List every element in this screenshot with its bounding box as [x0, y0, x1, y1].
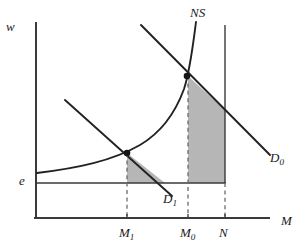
reservation-wage-label: e — [19, 174, 25, 187]
x-tick-label-m0: M0 — [180, 226, 195, 242]
figure-container: w e M NS D0 D1 M1 M0 N — [0, 0, 304, 252]
d1-base: D — [163, 191, 172, 206]
m0-base: M — [180, 225, 191, 240]
x-axis-label: M — [281, 214, 292, 227]
x-tick-label-m1: M1 — [119, 226, 134, 242]
y-axis-label: w — [6, 20, 15, 33]
d1-subscript: 1 — [172, 198, 177, 208]
x-tick-label-n: N — [219, 226, 228, 239]
labor-demand-d0-label: D0 — [270, 151, 284, 167]
shaded-region-surplus-d1 — [127, 153, 165, 183]
equilibrium-point-e1 — [124, 150, 131, 157]
d0-base: D — [270, 150, 279, 165]
labor-supply-curve-label: NS — [190, 6, 205, 19]
d0-subscript: 0 — [279, 157, 284, 167]
labor-supply-curve-ns — [37, 22, 196, 173]
m0-subscript: 0 — [191, 232, 196, 242]
m1-subscript: 1 — [130, 232, 135, 242]
labor-demand-d1-label: D1 — [163, 192, 177, 208]
equilibrium-point-e0 — [184, 73, 191, 80]
m1-base: M — [119, 225, 130, 240]
labor-demand-curve-d1 — [65, 100, 172, 196]
labor-market-diagram — [0, 0, 304, 252]
